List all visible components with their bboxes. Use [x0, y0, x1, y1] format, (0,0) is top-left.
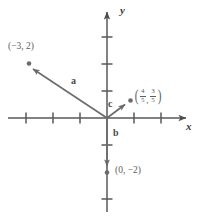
- paren-open: (: [135, 88, 139, 104]
- fraction-x-numerator: 4: [141, 88, 145, 95]
- x-axis-label: x: [186, 121, 192, 132]
- paren-close: ): [157, 88, 161, 104]
- vector-a: [27, 61, 107, 118]
- y-axis-label: y: [120, 5, 125, 16]
- coordinate-plane-svg: [0, 0, 200, 218]
- point-label-a: (−3, 2): [8, 42, 34, 52]
- fraction-y: 3 5: [150, 88, 156, 105]
- point-label-c: ( 4 5 , 3 5 ): [134, 88, 162, 105]
- fraction-comma: ,: [146, 96, 148, 105]
- vector-label-c: c: [108, 99, 112, 109]
- vector-label-b: b: [113, 128, 119, 138]
- point-label-b: (0, −2): [115, 166, 141, 176]
- fraction-y-numerator: 3: [151, 88, 155, 95]
- fraction-y-denominator: 5: [151, 97, 155, 104]
- vector-label-a: a: [71, 76, 76, 86]
- x-axis: [8, 113, 186, 124]
- point-dot-c: [128, 98, 133, 103]
- point-dot-a: [27, 61, 32, 66]
- point-dot-b: [105, 170, 110, 175]
- fraction-x: 4 5: [140, 88, 146, 105]
- vector-diagram-figure: y x (−3, 2) a b (0, −2) c ( 4 5 , 3 5 ): [0, 0, 200, 218]
- y-axis: [102, 12, 113, 212]
- fraction-x-denominator: 5: [141, 97, 145, 104]
